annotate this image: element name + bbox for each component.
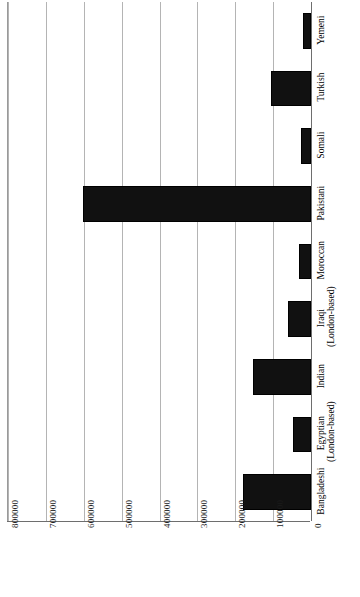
bar-iraqi-london-based xyxy=(288,301,311,337)
tick-label-200000: 200000 xyxy=(238,500,247,528)
bar-pakistani xyxy=(83,186,311,222)
bar-somali xyxy=(301,128,311,164)
category-label-bangladeshi: Bangladeshi xyxy=(316,462,326,520)
tick-label-500000: 500000 xyxy=(125,500,134,528)
category-label-somali: Somali xyxy=(316,116,326,174)
tick-label-100000: 100000 xyxy=(276,500,285,528)
bar-moroccan xyxy=(299,244,311,280)
tick-label-800000: 800000 xyxy=(11,500,20,528)
category-label-indian: Indian xyxy=(316,347,326,405)
category-label-egyptian-london-based: Egyptian(London-based) xyxy=(316,405,336,463)
bar-chart: 8000007000006000005000004000003000002000… xyxy=(0,0,360,597)
tick-label-700000: 700000 xyxy=(49,500,58,528)
bar-indian xyxy=(253,359,311,395)
category-label-pakistani: Pakistani xyxy=(316,174,326,232)
tick-label-400000: 400000 xyxy=(163,500,172,528)
category-label-yemeni: Yemeni xyxy=(316,1,326,59)
bar-turkish xyxy=(271,71,311,107)
category-label-iraqi-london-based: Iraqi(London-based) xyxy=(316,289,336,347)
category-label-turkish: Turkish xyxy=(316,59,326,117)
tick-label-0: 0 xyxy=(314,523,323,528)
tick-label-600000: 600000 xyxy=(87,500,96,528)
bars xyxy=(8,2,310,521)
category-label-moroccan: Moroccan xyxy=(316,232,326,290)
bar-yemeni xyxy=(303,13,311,49)
tick-label-300000: 300000 xyxy=(200,500,209,528)
gridline-0 xyxy=(311,2,312,521)
plot-area xyxy=(7,2,310,521)
bar-egyptian-london-based xyxy=(293,417,311,453)
